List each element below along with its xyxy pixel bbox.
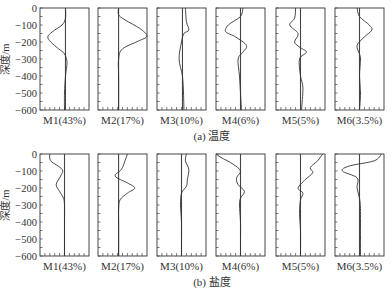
y-tick-label: −600	[15, 105, 37, 116]
panel-label: M1(43%)	[43, 114, 86, 127]
y-tick-label: −300	[15, 54, 37, 65]
panel-m3: M3(10%)	[157, 8, 206, 127]
y-tick-label: −200	[15, 37, 37, 48]
panel-m6: M6(3.5%)	[335, 154, 384, 273]
panel-m3: M3(10%)	[157, 154, 206, 273]
chart-row-2: 0−100−200−300−400−500−600深度/mM1(43%)M2(1…	[0, 149, 384, 290]
panel-label: M3(10%)	[160, 114, 203, 127]
panel-label: M2(17%)	[101, 114, 144, 127]
panel-frame	[98, 154, 147, 256]
y-tick-label: −600	[15, 251, 37, 262]
panel-m1: M1(43%)	[40, 8, 89, 127]
profile-curve	[225, 8, 246, 110]
profile-curve	[50, 154, 65, 256]
y-tick-label: −100	[15, 20, 37, 31]
y-tick-label: −400	[15, 71, 37, 82]
panel-m5: M5(5%)	[276, 8, 325, 127]
panel-label: M4(6%)	[222, 260, 260, 273]
panel-label: M6(3.5%)	[337, 114, 383, 127]
chart-caption: (a) 温度	[194, 129, 231, 143]
chart-caption: (b) 盐度	[193, 275, 231, 289]
y-tick-label: −300	[15, 200, 37, 211]
panel-m6: M6(3.5%)	[335, 8, 384, 127]
panel-m4: M4(6%)	[216, 8, 265, 127]
panel-m2: M2(17%)	[98, 154, 147, 273]
panel-frame	[157, 8, 206, 110]
y-tick-label: −500	[15, 234, 37, 245]
panel-label: M2(17%)	[101, 260, 144, 273]
panel-label: M4(6%)	[222, 114, 260, 127]
panel-label: M6(3.5%)	[337, 260, 383, 273]
panel-label: M1(43%)	[43, 260, 86, 273]
y-tick-label: −100	[15, 166, 37, 177]
figure: 0−100−200−300−400−500−600深度/mM1(43%)M2(1…	[0, 0, 391, 292]
profile-curve	[298, 154, 323, 256]
y-axis-title: 深度/m	[0, 189, 11, 220]
panel-m1: M1(43%)	[40, 154, 89, 273]
profile-curve	[48, 8, 67, 110]
panel-m4: M4(6%)	[216, 154, 265, 273]
profile-curve	[118, 8, 147, 110]
y-tick-label: −500	[15, 88, 37, 99]
chart-row-1: 0−100−200−300−400−500−600深度/mM1(43%)M2(1…	[0, 3, 384, 144]
y-tick-label: 0	[32, 149, 37, 160]
panel-frame	[98, 8, 147, 110]
panel-m2: M2(17%)	[98, 8, 147, 127]
y-tick-label: −400	[15, 217, 37, 228]
panel-label: M5(5%)	[282, 260, 320, 273]
panel-label: M5(5%)	[282, 114, 320, 127]
panel-label: M3(10%)	[160, 260, 203, 273]
profile-curve	[290, 8, 307, 110]
y-tick-label: 0	[32, 3, 37, 14]
profile-curve	[342, 154, 381, 256]
panel-m5: M5(5%)	[276, 154, 325, 273]
profile-curve	[179, 8, 189, 110]
y-axis-title: 深度/m	[0, 43, 11, 74]
y-tick-label: −200	[15, 183, 37, 194]
